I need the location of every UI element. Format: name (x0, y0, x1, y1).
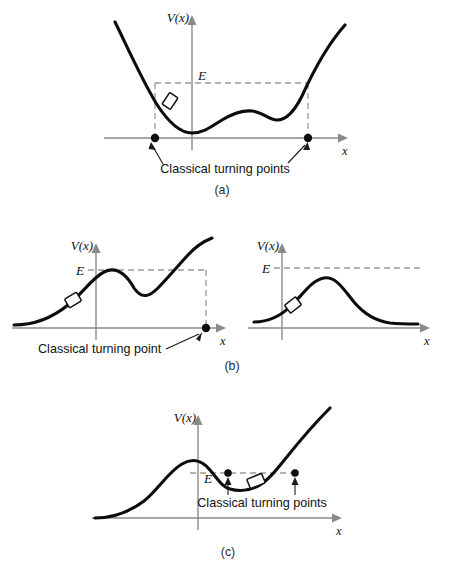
figure-canvas: V(x) E x Classical turning points (a) V(… (0, 0, 451, 574)
panel-c: V(x) E x Classical turning points (c) (92, 408, 342, 559)
panel-a-caption: Classical turning points (160, 162, 290, 176)
panel-b-right: V(x) E x (248, 238, 430, 348)
panel-b-left-y-axis-label: V(x) (71, 238, 93, 253)
panel-c-leader-right-arrow-icon (292, 477, 299, 485)
panel-a-tag: (a) (214, 183, 229, 197)
panel-b-tag: (b) (224, 359, 239, 373)
panel-c-y-axis-label: V(x) (174, 410, 196, 425)
panel-c-energy-label: E (203, 471, 213, 486)
panel-b-right-x-axis-label: x (423, 334, 430, 348)
panel-a-particle-block-icon (162, 92, 178, 109)
potential-energy-figure: V(x) E x Classical turning points (a) V(… (0, 0, 451, 574)
panel-a-turning-point-left (151, 134, 159, 142)
panel-b-left-leader (166, 334, 199, 349)
panel-c-leader-left-arrow-icon (225, 477, 232, 485)
panel-c-tag: (c) (221, 545, 235, 559)
panel-b-right-energy-label: E (261, 261, 271, 276)
panel-a-turning-point-right (304, 134, 312, 142)
panel-c-turning-point-left (224, 469, 232, 477)
panel-a-energy-label: E (197, 68, 207, 83)
panel-b-left-caption: Classical turning point (38, 342, 162, 356)
panel-a-x-axis-arrow-icon (338, 134, 348, 143)
panel-c-x-axis-arrow-icon (332, 514, 342, 523)
panel-a-x-axis-label: x (341, 144, 348, 158)
panel-b-left-turning-point (202, 324, 210, 332)
panel-c-particle-block-icon (247, 473, 266, 488)
panel-a-leader-right (288, 145, 305, 163)
panel-a-y-axis-label: V(x) (167, 10, 189, 25)
panel-b-right-potential-curve (254, 278, 418, 324)
panel-b-left-potential-curve (14, 238, 212, 325)
panel-b-left-x-axis-label: x (219, 334, 226, 348)
panel-a-potential-curve (115, 22, 345, 133)
panel-c-turning-point-right (291, 469, 299, 477)
panel-c-x-axis-label: x (335, 524, 342, 538)
panel-b-left-leader-arrow-icon (196, 332, 202, 342)
panel-a: V(x) E x Classical turning points (a) (104, 10, 348, 197)
panel-c-caption: Classical turning points (197, 496, 327, 510)
panel-a-leader-left-arrow-icon (149, 142, 157, 150)
panel-b-right-y-axis-label: V(x) (257, 238, 279, 253)
panel-b-right-x-axis-arrow-icon (420, 324, 430, 333)
panel-b-left: V(x) E x Classical turning point (12, 238, 226, 356)
panel-b-left-energy-label: E (75, 263, 85, 278)
panel-b-left-x-axis-arrow-icon (216, 324, 226, 333)
